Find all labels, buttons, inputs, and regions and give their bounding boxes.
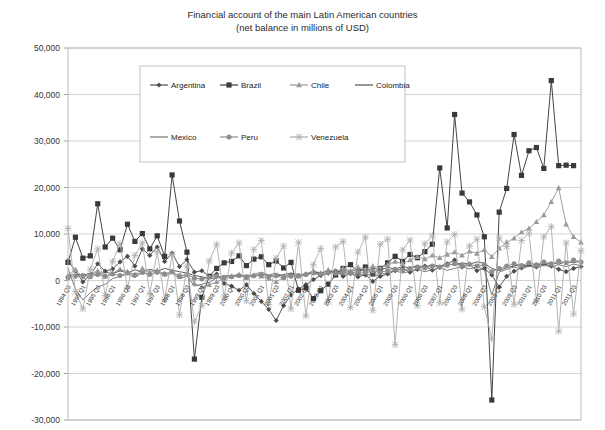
data-point <box>199 277 204 282</box>
data-point <box>555 328 562 335</box>
data-point <box>237 273 242 278</box>
data-point <box>526 230 533 237</box>
data-point <box>288 305 295 312</box>
data-point <box>378 270 383 275</box>
data-point <box>333 271 338 276</box>
chart-svg: 50,00040,00030,00020,00010,0000-10,000-2… <box>0 0 605 430</box>
data-point <box>459 190 464 195</box>
data-point <box>451 231 458 238</box>
legend-label: Mexico <box>171 133 197 142</box>
data-point <box>169 172 174 177</box>
data-point <box>117 240 124 247</box>
data-point <box>504 274 509 279</box>
y-axis-tick-label: 20,000 <box>34 183 60 193</box>
data-point <box>511 235 517 240</box>
data-point <box>88 253 93 258</box>
legend-label: Chile <box>311 81 330 90</box>
data-point <box>519 263 524 268</box>
data-point <box>303 312 310 319</box>
data-point <box>274 273 279 278</box>
data-point <box>289 274 294 279</box>
data-point <box>571 258 576 263</box>
y-axis-tick-label: 0 <box>55 276 60 286</box>
data-point <box>474 264 479 269</box>
data-point <box>460 263 465 268</box>
data-point <box>103 244 108 249</box>
data-point <box>147 272 152 277</box>
data-point <box>429 232 436 239</box>
data-point <box>497 210 502 215</box>
data-point <box>445 225 450 230</box>
data-point <box>482 234 487 239</box>
legend-label: Peru <box>241 133 258 142</box>
data-point <box>110 236 115 241</box>
data-point <box>80 273 85 278</box>
data-point <box>541 259 546 264</box>
data-point <box>348 262 353 267</box>
data-point <box>534 145 539 150</box>
data-point <box>407 237 414 244</box>
data-point <box>392 341 399 348</box>
data-point <box>258 237 265 244</box>
data-point <box>326 270 331 275</box>
data-point <box>155 233 160 238</box>
data-point <box>95 201 100 206</box>
data-point <box>222 275 227 280</box>
data-point <box>118 273 123 278</box>
data-point <box>496 235 503 242</box>
data-point <box>474 236 481 243</box>
data-point <box>274 318 279 323</box>
legend-marker <box>226 82 231 87</box>
data-point <box>103 274 108 279</box>
data-point <box>541 212 547 217</box>
data-point <box>87 266 94 273</box>
data-point <box>184 263 191 270</box>
data-point <box>430 264 435 269</box>
data-point <box>518 237 525 244</box>
data-point <box>556 267 561 272</box>
data-point <box>482 247 488 252</box>
data-point <box>192 356 197 361</box>
data-point <box>564 163 569 168</box>
data-point <box>549 261 554 266</box>
data-point <box>266 262 271 267</box>
data-point <box>95 272 100 277</box>
data-point <box>549 78 554 83</box>
y-axis-tick-label: 30,000 <box>34 136 60 146</box>
data-point <box>571 266 576 271</box>
data-point <box>422 249 427 254</box>
y-axis-labels: 50,00040,00030,00020,00010,0000-10,000-2… <box>31 43 60 425</box>
data-point <box>132 252 139 259</box>
data-point <box>303 272 308 277</box>
data-point <box>288 260 293 265</box>
data-point <box>244 275 249 280</box>
data-point <box>177 273 182 278</box>
data-point <box>177 218 182 223</box>
data-point <box>459 306 466 313</box>
data-point <box>362 234 369 241</box>
data-point <box>445 263 450 268</box>
data-point <box>213 241 220 248</box>
data-point <box>191 318 198 325</box>
x-axis-labels: 1994 Q31995 Q11995 Q31996 Q11996 Q31997 … <box>55 283 578 307</box>
legend-label: Brazil <box>241 81 261 90</box>
data-point <box>192 276 197 281</box>
data-point <box>310 261 317 268</box>
data-point <box>519 229 525 234</box>
data-point <box>519 173 524 178</box>
data-point <box>474 212 479 217</box>
data-point <box>467 199 472 204</box>
data-point <box>570 311 577 318</box>
data-point <box>132 272 137 277</box>
data-point <box>496 245 502 250</box>
data-point <box>393 267 398 272</box>
data-point <box>548 223 555 230</box>
data-point <box>184 250 189 255</box>
data-point <box>488 336 495 343</box>
data-point <box>512 261 517 266</box>
data-point <box>384 236 391 243</box>
series-argentina <box>65 244 583 323</box>
data-point <box>466 243 473 250</box>
data-point <box>348 271 353 276</box>
data-point <box>206 258 213 265</box>
